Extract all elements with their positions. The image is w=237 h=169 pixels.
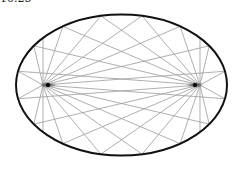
reflection-ray: [43, 26, 200, 85]
left-focus-dot: [46, 83, 50, 87]
ellipse-diagram: [0, 0, 237, 169]
reflection-ray: [43, 26, 200, 85]
reflection-ray: [43, 85, 200, 144]
foci-points: [39, 82, 204, 88]
right-focus-dot: [193, 83, 197, 87]
reflection-ray: [43, 85, 200, 144]
